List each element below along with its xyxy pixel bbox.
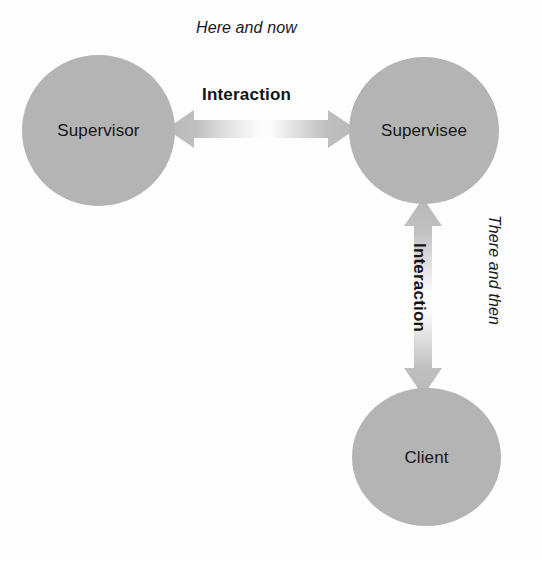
double-headed-arrow-shape [166,110,356,148]
arrow-label-interaction-vertical: Interaction [411,243,428,332]
node-client-label: Client [404,449,448,466]
node-supervisor[interactable]: Supervisor [22,55,175,206]
context-label-there-and-then: There and then [486,215,502,325]
diagram-canvas: Here and now There and then [0,0,543,561]
node-supervisee[interactable]: Supervisee [349,57,499,204]
node-supervisee-label: Supervisee [381,122,467,139]
context-label-here-and-now: Here and now [196,20,297,36]
node-client[interactable]: Client [352,388,501,526]
node-supervisor-label: Supervisor [57,122,139,139]
interaction-arrow-horizontal [166,106,356,152]
arrow-label-interaction-horizontal: Interaction [202,86,291,103]
